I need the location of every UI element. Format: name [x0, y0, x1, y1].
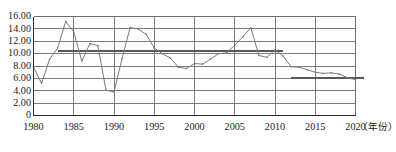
x-tick-label: 2000	[175, 122, 215, 132]
x-tick-label: 2015	[295, 122, 335, 132]
x-axis-unit-label: （年份）	[358, 122, 396, 132]
y-tick-label: 14.00	[8, 24, 31, 34]
x-tick-label: 2010	[255, 122, 295, 132]
x-tick-label: 1995	[134, 122, 174, 132]
y-tick-label: 6.00	[13, 73, 31, 83]
x-tick-label: 1980	[14, 122, 54, 132]
x-tick-label: 1990	[94, 122, 134, 132]
x-tick-label: 1985	[54, 122, 94, 132]
y-tick-label: 4.00	[13, 86, 31, 96]
x-tick-label: 2005	[215, 122, 255, 132]
y-tick-label: 10.00	[8, 48, 31, 58]
y-tick-label: 12.00	[8, 36, 31, 46]
y-tick-label: 0	[26, 110, 31, 120]
y-tick-label: 2.00	[13, 98, 31, 108]
y-tick-label: 16.00	[8, 11, 31, 21]
y-tick-label: 8.00	[13, 61, 31, 71]
